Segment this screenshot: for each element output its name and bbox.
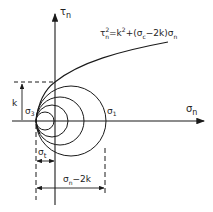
tau-axis-label: τn: [60, 6, 71, 20]
envelope-equation: τ2n=k2+(σc−2k)σn: [100, 26, 177, 40]
sigma3-label: σ3: [25, 106, 35, 117]
sigma-axis-label: σn: [186, 103, 197, 117]
sigma-n-minus-2k-label: σn−2k: [63, 174, 92, 186]
failure-envelope-curve: [36, 42, 168, 121]
k-label: k: [12, 98, 18, 108]
sigma1-label: σ1: [107, 106, 117, 117]
mohr-diagram: τn σn τ2n=k2+(σc−2k)σn k σ3 σ1 σt σn−2k: [0, 0, 213, 212]
sigma-t-label: σt: [38, 147, 47, 160]
